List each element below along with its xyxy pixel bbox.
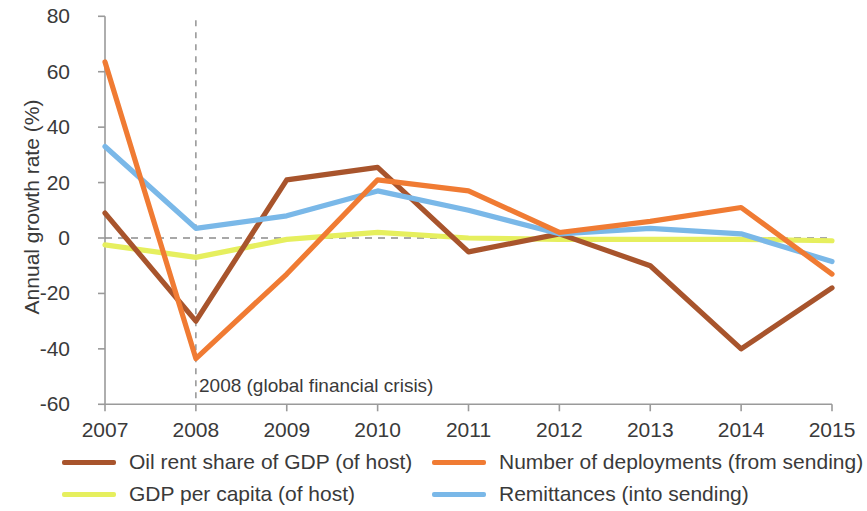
legend-swatch-oil-rent-share xyxy=(62,460,116,465)
x-tick-label: 2011 xyxy=(429,418,509,442)
x-tick-label: 2014 xyxy=(701,418,781,442)
x-tick-label: 2013 xyxy=(610,418,690,442)
series-line xyxy=(105,147,832,262)
legend-swatch-gdp-per-capita xyxy=(62,492,116,497)
legend-label-remittances: Remittances (into sending) xyxy=(499,482,749,506)
legend-swatch-remittances xyxy=(432,492,486,497)
chart-legend: Oil rent share of GDP (of host) GDP per … xyxy=(0,448,857,511)
crisis-annotation-label: 2008 (global financial crisis) xyxy=(199,375,433,397)
legend-swatch-deployments xyxy=(432,460,486,465)
legend-label-deployments: Number of deployments (from sending) xyxy=(499,450,863,474)
x-tick-label: 2010 xyxy=(338,418,418,442)
legend-item-remittances: Remittances (into sending) xyxy=(432,482,749,506)
x-tick-label: 2009 xyxy=(247,418,327,442)
legend-item-oil-rent-share: Oil rent share of GDP (of host) xyxy=(62,450,412,474)
x-tick-label: 2015 xyxy=(792,418,867,442)
legend-item-deployments: Number of deployments (from sending) xyxy=(432,450,863,474)
x-tick-label: 2007 xyxy=(65,418,145,442)
x-tick-label: 2012 xyxy=(519,418,599,442)
legend-item-gdp-per-capita: GDP per capita (of host) xyxy=(62,482,355,506)
x-tick-label: 2008 xyxy=(156,418,236,442)
legend-label-gdp-per-capita: GDP per capita (of host) xyxy=(129,482,355,506)
series-line xyxy=(105,167,832,349)
legend-label-oil-rent-share: Oil rent share of GDP (of host) xyxy=(129,450,412,474)
plot-area: Annual growth rate (%) -60-40-2002040608… xyxy=(0,0,857,450)
